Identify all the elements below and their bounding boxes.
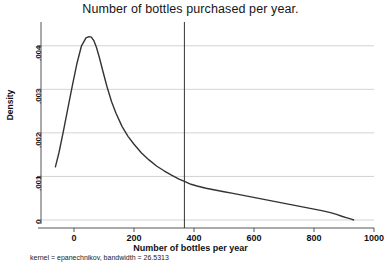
chart-footnote: kernel = epanechnikov, bandwidth = 26.53…	[30, 254, 169, 261]
x-axis-label: Number of bottles per year	[0, 243, 381, 253]
density-curve	[55, 37, 353, 220]
